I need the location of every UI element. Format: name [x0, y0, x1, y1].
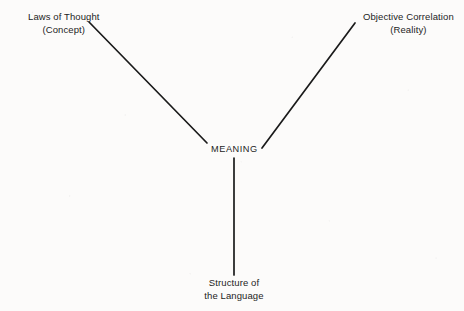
- node-label-structure-line1: Structure of: [209, 277, 259, 288]
- edge-concept-to-meaning: [89, 22, 207, 143]
- node-label-structure-line2: the Language: [194, 290, 274, 303]
- node-label-concept: Laws of Thought (Concept): [28, 11, 100, 36]
- node-label-reality: Objective Correlation (Reality): [363, 11, 454, 36]
- node-label-reality-line2: (Reality): [363, 24, 454, 37]
- node-label-concept-line2: (Concept): [28, 24, 100, 37]
- node-label-concept-line1: Laws of Thought: [28, 11, 100, 22]
- node-label-reality-line1: Objective Correlation: [363, 11, 454, 22]
- diagram-canvas: Laws of Thought (Concept) Objective Corr…: [0, 0, 464, 311]
- edge-reality-to-meaning: [262, 23, 355, 148]
- node-label-meaning: MEANING: [211, 143, 258, 156]
- node-label-structure: Structure of the Language: [194, 277, 274, 302]
